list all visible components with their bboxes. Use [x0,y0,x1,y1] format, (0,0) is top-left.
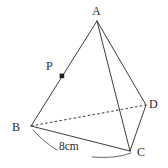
measurement-label-8cm: 8cm [59,141,79,153]
measure-arc-right [92,153,131,158]
vertex-label-b: B [12,121,20,133]
measure-arc-left [33,130,57,150]
vertex-label-c: C [137,146,145,158]
vertex-label-a: A [92,5,101,17]
geometry-figure: A B C D P 8cm [0,0,168,168]
point-p-marker [60,74,65,79]
point-label-p: P [46,60,53,72]
figure-canvas [0,0,168,168]
edge-b-c [31,126,130,151]
edge-a-b [31,21,97,126]
vertex-label-d: D [149,98,158,110]
edge-a-d [97,21,146,105]
edge-a-c [97,21,130,151]
edge-b-d-hidden [31,105,146,126]
